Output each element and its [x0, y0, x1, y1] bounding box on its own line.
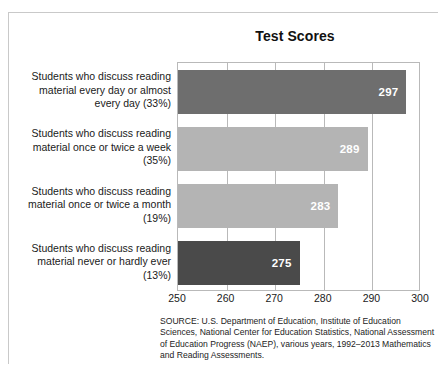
bar-row[interactable]: 289 — [178, 127, 368, 171]
bars-layer: 297 289 283 275 — [178, 63, 419, 290]
bar-row[interactable]: 283 — [178, 184, 338, 228]
category-label: Students who discuss reading material on… — [16, 127, 171, 168]
chart-title: Test Scores — [170, 28, 420, 44]
x-tick-label: 290 — [363, 292, 381, 304]
plot-area: 297 289 283 275 — [177, 62, 420, 291]
bar[interactable]: 283 — [178, 184, 338, 228]
source-note: SOURCE: U.S. Department of Education, In… — [160, 316, 435, 362]
x-axis: 250 260 270 280 290 300 — [177, 292, 420, 308]
x-tick-label: 250 — [168, 292, 186, 304]
category-axis-labels: Students who discuss reading material ev… — [16, 62, 171, 291]
bar-value-label: 297 — [379, 86, 399, 98]
category-label: Students who discuss reading material ev… — [16, 70, 171, 111]
bar[interactable]: 297 — [178, 70, 406, 114]
category-label: Students who discuss reading material ne… — [16, 242, 171, 283]
bar-value-label: 283 — [311, 200, 331, 212]
bar-value-label: 275 — [272, 257, 292, 269]
x-tick-label: 260 — [217, 292, 235, 304]
bar-value-label: 289 — [340, 143, 360, 155]
bar-row[interactable]: 275 — [178, 241, 300, 285]
x-tick-label: 280 — [314, 292, 332, 304]
category-label: Students who discuss reading material on… — [16, 185, 171, 226]
bar[interactable]: 289 — [178, 127, 368, 171]
bar-row[interactable]: 297 — [178, 70, 406, 114]
x-tick-label: 300 — [411, 292, 429, 304]
bar[interactable]: 275 — [178, 241, 300, 285]
x-tick-label: 270 — [265, 292, 283, 304]
